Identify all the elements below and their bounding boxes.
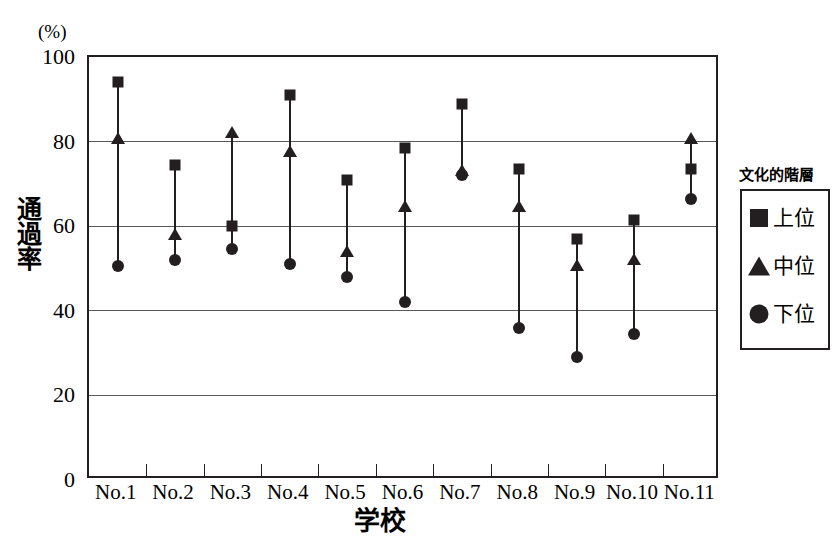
data-point-triangle <box>570 259 584 271</box>
data-point-triangle <box>111 133 125 145</box>
x-axis-tick <box>663 464 664 476</box>
x-axis-tick <box>376 464 377 476</box>
data-point-square <box>399 142 410 153</box>
data-point-circle <box>341 271 353 283</box>
data-point-triangle <box>283 145 297 157</box>
legend-item-上位: 上位 <box>749 203 815 233</box>
data-point-circle <box>226 243 238 255</box>
data-point-triangle <box>398 200 412 212</box>
x-axis-tick-label: No.8 <box>489 482 546 503</box>
y-axis-tick-label: 40 <box>29 300 75 322</box>
range-stem <box>633 220 635 334</box>
data-point-circle <box>685 193 697 205</box>
x-axis-tick-label: No.6 <box>374 482 431 503</box>
data-point-circle <box>169 254 181 266</box>
data-point-square <box>342 174 353 185</box>
x-axis-tick-label: No.7 <box>431 482 488 503</box>
legend-item-label: 下位 <box>773 304 815 325</box>
range-stem <box>117 82 119 266</box>
data-point-triangle <box>627 253 641 265</box>
x-axis-tick-label: No.5 <box>316 482 373 503</box>
range-stem <box>289 95 291 264</box>
data-point-square <box>227 221 238 232</box>
x-axis-tick <box>318 464 319 476</box>
x-axis-tick <box>204 464 205 476</box>
square-marker-icon <box>749 208 769 228</box>
data-point-square <box>170 159 181 170</box>
triangle-marker-icon <box>749 256 769 276</box>
range-stem <box>518 169 520 328</box>
chart-root: (%) 通過率 学校 020406080100 文化的階層 上位中位下位 No.… <box>0 0 839 548</box>
data-point-circle <box>112 260 124 272</box>
x-axis-tick <box>433 464 434 476</box>
data-point-circle <box>399 296 411 308</box>
range-stem <box>174 165 176 260</box>
plot-area: 020406080100 <box>87 55 718 478</box>
data-point-circle <box>571 351 583 363</box>
data-point-triangle <box>340 245 354 257</box>
y-axis-tick-label: 100 <box>29 46 75 68</box>
x-axis-tick-label: No.9 <box>546 482 603 503</box>
x-axis-title: 学校 <box>0 508 760 534</box>
data-point-square <box>456 98 467 109</box>
data-point-square <box>284 90 295 101</box>
data-point-square <box>686 164 697 175</box>
x-axis-tick-label: No.3 <box>202 482 259 503</box>
data-point-square <box>571 233 582 244</box>
circle-marker-icon <box>749 304 769 324</box>
data-point-square <box>514 164 525 175</box>
x-axis-tick <box>491 464 492 476</box>
y-axis-unit-label: (%) <box>38 22 66 41</box>
y-axis-tick-label: 20 <box>29 384 75 406</box>
data-point-triangle <box>684 133 698 145</box>
range-stem <box>231 133 233 249</box>
gridline <box>89 226 716 227</box>
y-axis-tick-label: 0 <box>29 469 75 491</box>
x-axis-tick <box>605 464 606 476</box>
x-axis-tick <box>261 464 262 476</box>
legend-item-下位: 下位 <box>749 299 815 329</box>
data-point-square <box>628 214 639 225</box>
range-stem <box>346 180 348 277</box>
legend-item-label: 上位 <box>773 208 815 229</box>
data-point-circle <box>513 322 525 334</box>
x-axis-tick-label: No.10 <box>603 482 660 503</box>
data-point-circle <box>628 328 640 340</box>
legend-title: 文化的階層 <box>739 168 814 183</box>
y-axis-tick-label: 80 <box>29 131 75 153</box>
data-point-triangle <box>512 200 526 212</box>
x-axis-tick-label: No.2 <box>144 482 201 503</box>
range-stem <box>404 148 406 302</box>
legend-item-label: 中位 <box>773 256 815 277</box>
gridline <box>89 395 716 396</box>
legend-box: 上位中位下位 <box>740 189 830 350</box>
data-point-triangle <box>225 126 239 138</box>
x-axis-tick <box>548 464 549 476</box>
y-axis-tick-label: 60 <box>29 215 75 237</box>
x-axis-tick-label: No.4 <box>259 482 316 503</box>
range-stem <box>576 239 578 357</box>
legend-item-中位: 中位 <box>749 251 815 281</box>
data-point-circle <box>456 169 468 181</box>
data-point-square <box>112 77 123 88</box>
x-axis-tick-label: No.11 <box>661 482 718 503</box>
gridline <box>89 310 716 311</box>
data-point-circle <box>284 258 296 270</box>
x-axis-tick-label: No.1 <box>87 482 144 503</box>
data-point-triangle <box>168 228 182 240</box>
x-axis-tick <box>146 464 147 476</box>
